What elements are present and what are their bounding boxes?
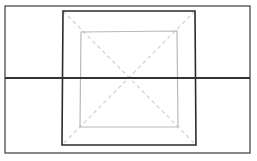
nested-rectangles-diagram [0, 0, 257, 161]
canvas-background [0, 0, 257, 161]
diagram-canvas [0, 0, 257, 161]
